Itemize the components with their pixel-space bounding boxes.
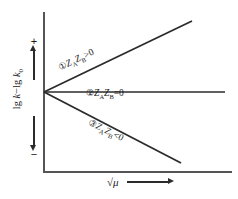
curve-line-1 bbox=[44, 21, 192, 92]
x-axis-label-group: √μ bbox=[106, 176, 169, 188]
curve-marker-2: ② bbox=[86, 88, 94, 98]
curve-label-2: ②ZAZB=0 bbox=[86, 88, 124, 100]
right-arrow-icon bbox=[127, 181, 169, 183]
figure-canvas: lg k−lg k0 + − ①ZAZB>0 ②ZAZB=0 ③ZAZB<0 √… bbox=[0, 0, 238, 199]
x-axis-label: √μ bbox=[106, 176, 119, 188]
curve-2-operator: =0 bbox=[114, 88, 124, 98]
